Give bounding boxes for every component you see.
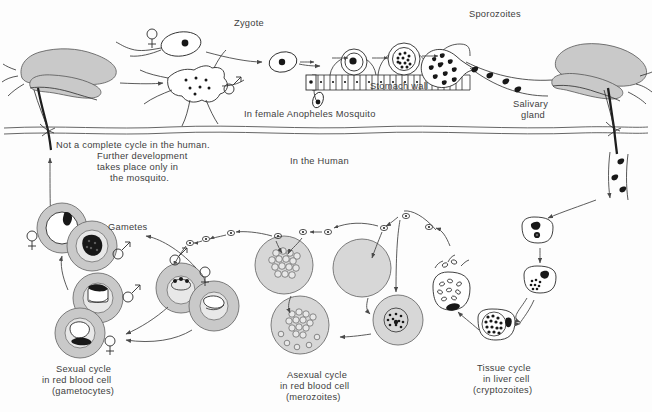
malaria-life-cycle-diagram: Zygote: [0, 0, 652, 412]
mosquito-head-feeding-left: [2, 49, 116, 150]
ookinete-stellate-form: [140, 50, 244, 126]
arrow-gametocyte-to-mature: [126, 330, 192, 342]
rbc-young-gametocyte-b: [189, 281, 239, 331]
note-line-4: the mosquito.: [110, 173, 169, 183]
note-line-2: Further development: [97, 151, 188, 161]
arrow-gamete-to-zygote: [206, 52, 262, 62]
arrow-gametocyte-to-gamete: [61, 256, 68, 290]
arrow-rbc-to-schizont: [340, 334, 371, 337]
note-line-3: takes place only in: [97, 162, 178, 172]
label-stomach-wall: Stomach wall: [370, 81, 428, 91]
label-human-section: In the Human: [290, 156, 349, 166]
free-merozoites-center: [186, 213, 432, 245]
rbc-trophozoite-ring: [373, 295, 423, 345]
label-zygote: Zygote: [234, 18, 264, 28]
liver-cell-early: [522, 217, 553, 243]
label-sexual-cycle-line2: in red blood cell: [42, 375, 111, 385]
female-symbol-top-gamete: [147, 29, 157, 48]
arrow-merozoite-left-d: [194, 241, 202, 243]
arrow-to-liver-cell: [548, 200, 596, 218]
ruptured-liver-cell-releasing-merozoites: [433, 255, 470, 312]
arrow-head-to-ookinete: [120, 83, 163, 84]
oocyst-ruptured-releasing-sporozoites: [421, 49, 476, 87]
label-gametes: Gametes: [108, 222, 148, 232]
arrow-merozoite-down-a: [386, 217, 398, 226]
arrow-liver-2: [516, 298, 527, 322]
sporozoite-path-right: [627, 154, 629, 200]
migrating-sporozoites: [471, 67, 521, 93]
arrow-merozoite-out-left: [236, 232, 272, 236]
label-sporozoites: Sporozoites: [469, 9, 521, 19]
sporozoites-entering-human: [611, 159, 626, 193]
rbc-schizont-segmenting: [271, 296, 329, 354]
label-asexual-cycle-line3: (merozoites): [286, 392, 341, 402]
arrow-liver-2b: [520, 300, 534, 324]
male-symbol-gametocyte-left: [123, 285, 140, 302]
oocyst-young: [341, 49, 367, 75]
arrow-rbc-trophozoite: [367, 298, 370, 314]
sporozoite-migration-line-b: [470, 68, 548, 96]
label-sexual-cycle-line3: (gametocytes): [52, 386, 114, 396]
label-mosquito-section: In female Anopheles Mosquito: [244, 109, 376, 119]
label-tissue-cycle-line2: in liver cell: [483, 374, 530, 384]
note-line-1: Not a complete cycle in the human.: [56, 140, 210, 150]
label-tissue-cycle-line1: Tissue cycle: [477, 363, 531, 373]
diagram-canvas: Zygote: [0, 0, 652, 412]
label-asexual-cycle-line1: Asexual cycle: [287, 370, 347, 380]
rbc-merozoite-cluster: [255, 236, 313, 294]
arrow-merozoite-left-c: [210, 235, 226, 239]
skin-surface-divider: [4, 126, 648, 134]
arrow-gametocyte-maturing: [126, 307, 168, 334]
female-symbol-gametocyte-left: [105, 336, 115, 355]
label-tissue-cycle-line3: (cryptozoites): [473, 385, 532, 395]
arrow-merozoite-to-trophozoite: [396, 220, 400, 292]
oocyst-mature: [388, 43, 420, 75]
rbc-mature-gametocyte-lower: [55, 308, 105, 358]
arrow-schizont-to-rupture: [458, 312, 479, 330]
liver-cell-growing: [524, 266, 556, 293]
female-symbol-gametes: [27, 231, 37, 250]
liver-cell-schizont: [478, 309, 515, 340]
arrow-zygote-to-wall: [299, 64, 320, 66]
label-asexual-cycle-line2: in red blood cell: [280, 381, 349, 391]
label-salivary-gland-line1: Salivary: [513, 99, 548, 109]
mosquito-head-biting-right: [552, 44, 652, 154]
zygote-cell: [267, 49, 299, 74]
arrow-merozoite-left-b: [334, 223, 378, 228]
female-gamete-top: [116, 29, 202, 58]
arrow-sporozoite-into-liver: [609, 152, 611, 198]
label-sexual-cycle-line1: Sexual cycle: [56, 364, 111, 374]
rbc-plain-invaded: [333, 239, 391, 297]
arrow-liver-exit: [436, 228, 450, 246]
label-salivary-gland-line2: gland: [521, 110, 545, 120]
sporozoite-migration-line-a: [466, 62, 552, 80]
